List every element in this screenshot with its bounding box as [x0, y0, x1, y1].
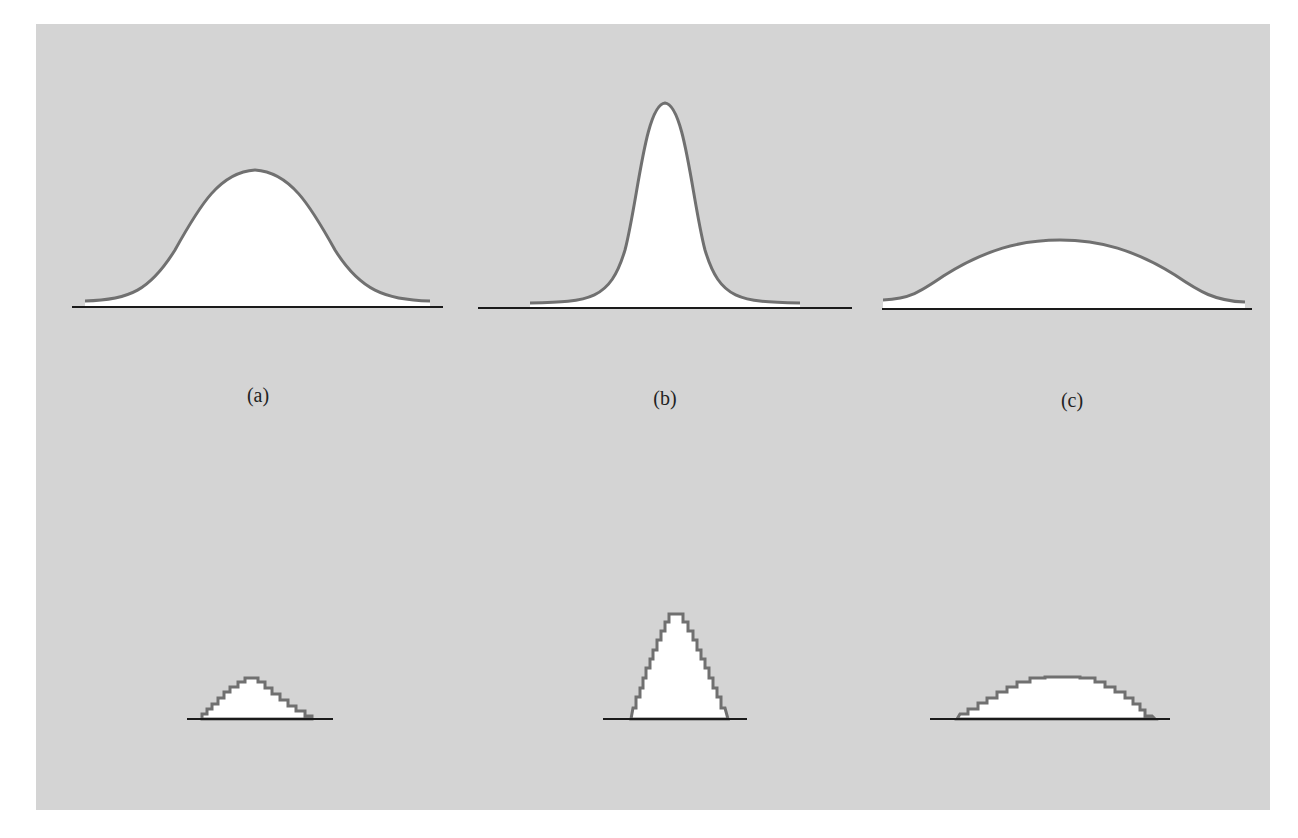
curve-c: [882, 240, 1252, 309]
distribution-figure: [0, 0, 1298, 838]
curve-b: [478, 103, 852, 308]
step-c: [930, 677, 1170, 719]
step-b: [603, 614, 747, 719]
curve-a: [72, 170, 443, 307]
label-c: (c): [1061, 389, 1083, 412]
label-a: (a): [247, 384, 269, 407]
label-b: (b): [653, 387, 676, 410]
step-a: [187, 678, 333, 719]
